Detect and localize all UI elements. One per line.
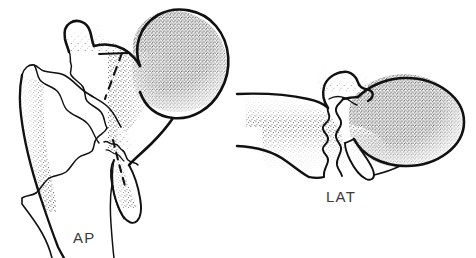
figure-container: AP LAT — [0, 0, 476, 258]
view-label-lat: LAT — [326, 188, 356, 205]
view-label-ap: AP — [73, 229, 95, 246]
ap-intertrochanteric-ridge-line — [99, 53, 128, 54]
bone-illustration-svg — [0, 0, 476, 258]
lat-proximal-fragment-distal-edge — [309, 177, 324, 178]
